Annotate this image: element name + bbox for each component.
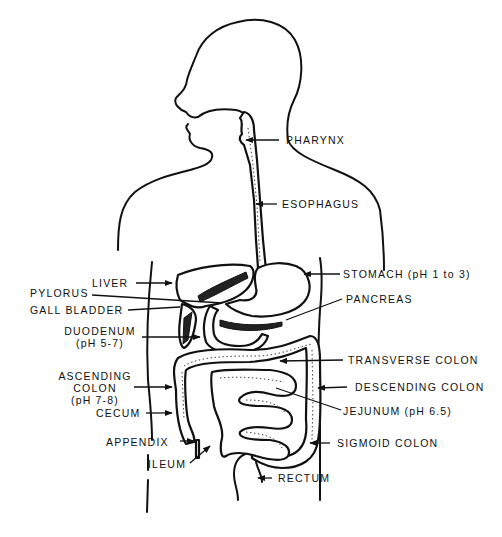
label-pancreas: PANCREAS: [346, 293, 413, 305]
label-ascending-colon: ASCENDING COLON (pH 7-8): [55, 370, 135, 406]
label-stomach: STOMACH (pH 1 to 3): [343, 268, 471, 280]
label-jejunum: JEJUNUM (pH 6.5): [343, 405, 452, 417]
small-intestine-shape: [211, 370, 296, 460]
label-cecum: CECUM: [96, 407, 141, 419]
label-descending-colon: DESCENDING COLON: [355, 381, 484, 393]
esophagus-shape: [240, 112, 266, 270]
label-liver: LIVER: [92, 277, 128, 289]
label-transverse-colon: TRANSVERSE COLON: [348, 354, 479, 366]
pancreas-shape: [220, 320, 282, 331]
label-pylorus: PYLORUS: [30, 287, 89, 299]
label-pharynx: PHARYNX: [286, 134, 345, 146]
label-rectum: RECTUM: [278, 472, 330, 484]
label-esophagus: ESOPHAGUS: [282, 198, 359, 210]
label-gall-bladder: GALL BLADDER: [30, 304, 123, 316]
label-sigmoid-colon: SIGMOID COLON: [337, 437, 438, 449]
label-ileum: ILEUM: [148, 458, 186, 470]
label-appendix: APPENDIX: [106, 436, 169, 448]
label-duodenum: DUODENUM (pH 5-7): [60, 325, 140, 349]
